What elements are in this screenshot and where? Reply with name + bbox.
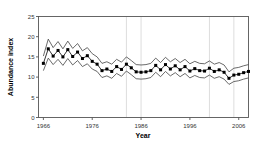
data-point-marker (81, 57, 84, 60)
data-point-marker (96, 63, 99, 66)
data-point-marker (208, 67, 211, 70)
data-point-marker (247, 70, 250, 73)
x-axis-ticks: 19661976198619962006 (37, 118, 246, 129)
x-tick-label: 1966 (37, 123, 51, 129)
data-point-marker (154, 64, 157, 67)
data-point-marker (227, 77, 230, 80)
abundance-index-markers (42, 47, 250, 79)
y-tick-label: 10 (28, 74, 35, 80)
data-point-marker (52, 55, 55, 58)
data-point-marker (169, 68, 172, 71)
data-point-marker (91, 60, 94, 63)
plot-frame (39, 17, 249, 118)
data-point-marker (164, 63, 167, 66)
y-axis-ticks: 0510152025 (28, 14, 39, 121)
data-point-marker (223, 71, 226, 74)
data-point-marker (144, 70, 147, 73)
data-point-marker (193, 67, 196, 70)
data-point-marker (203, 70, 206, 73)
x-axis-title: Year (136, 132, 151, 139)
data-point-marker (198, 69, 201, 72)
x-tick-label: 2006 (232, 123, 246, 129)
y-tick-label: 20 (28, 34, 35, 40)
axes-frame (39, 17, 249, 118)
data-point-marker (130, 66, 133, 69)
y-tick-label: 25 (28, 14, 35, 20)
data-point-marker (140, 71, 143, 74)
data-point-marker (57, 49, 60, 52)
x-tick-label: 1996 (183, 123, 197, 129)
data-point-marker (135, 70, 138, 73)
data-point-marker (100, 69, 103, 72)
data-point-marker (159, 68, 162, 71)
data-point-marker (237, 73, 240, 76)
y-tick-label: 15 (28, 54, 35, 60)
data-point-marker (105, 68, 108, 71)
chart-canvas: 0510152025 19661976198619962006 Abundanc… (0, 0, 257, 141)
data-point-marker (66, 48, 69, 51)
data-point-marker (242, 71, 245, 74)
data-point-marker (179, 68, 182, 71)
data-point-marker (71, 55, 74, 58)
data-point-marker (184, 65, 187, 68)
data-point-marker (213, 70, 216, 73)
abundance-index-chart: 0510152025 19661976198619962006 Abundanc… (0, 0, 257, 141)
y-tick-label: 0 (31, 115, 35, 121)
data-point-marker (188, 70, 191, 73)
y-axis-title: Abundance index (7, 38, 14, 96)
data-point-marker (47, 47, 50, 50)
data-point-marker (232, 74, 235, 77)
gridlines (126, 17, 233, 118)
y-tick-label: 5 (31, 95, 35, 101)
data-point-marker (120, 68, 123, 71)
data-point-marker (76, 51, 79, 54)
data-point-marker (110, 70, 113, 73)
data-point-marker (61, 55, 64, 58)
data-point-marker (174, 64, 177, 67)
data-point-marker (125, 63, 128, 66)
data-point-marker (218, 68, 221, 71)
data-point-marker (86, 54, 89, 57)
data-point-marker (42, 62, 45, 65)
data-point-marker (149, 69, 152, 72)
data-point-marker (115, 65, 118, 68)
x-tick-label: 1986 (134, 123, 148, 129)
x-tick-label: 1976 (86, 123, 100, 129)
